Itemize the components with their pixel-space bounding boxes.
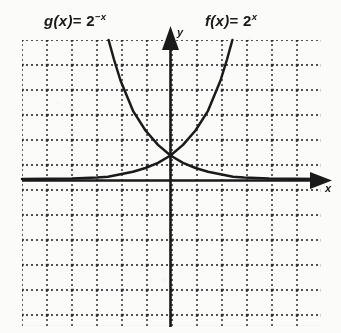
curve-f-exponential-growth bbox=[22, 40, 232, 179]
curve-g-equals: = 2 bbox=[73, 12, 95, 29]
curve-f-label: f(x)= 2x bbox=[205, 12, 257, 29]
curve-g-label: g(x)= 2−x bbox=[44, 12, 106, 29]
curve-g-function-name: g(x) bbox=[44, 12, 73, 29]
curve-g-exponential-decay bbox=[109, 40, 319, 179]
curve-f-equals: = 2 bbox=[230, 12, 252, 29]
curve-f-exponent: x bbox=[252, 11, 258, 22]
exponential-functions-figure: g(x)= 2−x f(x)= 2x y x bbox=[0, 0, 341, 333]
curve-g-exponent: −x bbox=[95, 11, 106, 22]
curve-f-function-name: f(x) bbox=[205, 12, 230, 29]
y-axis-label: y bbox=[177, 26, 183, 38]
plot-canvas bbox=[0, 0, 341, 333]
x-axis-label: x bbox=[325, 182, 331, 194]
